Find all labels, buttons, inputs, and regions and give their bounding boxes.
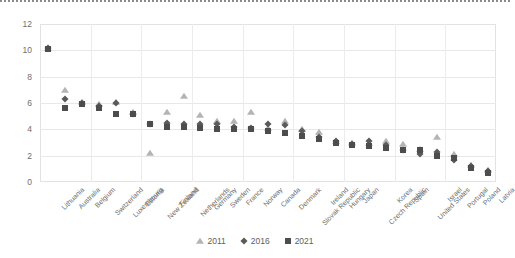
data-point-2021-switzerland — [96, 105, 102, 111]
square-marker-icon — [284, 237, 292, 245]
x-axis-label-spain: Spain — [412, 186, 430, 204]
legend-label: 2011 — [207, 236, 225, 246]
gridline-vertical — [293, 24, 294, 182]
gridline-vertical — [344, 24, 345, 182]
y-axis-tick: 2 — [27, 151, 32, 161]
data-point-2021-united-states — [417, 147, 423, 153]
y-axis-tick: 0 — [27, 177, 32, 187]
legend-item-2021[interactable]: 2021 — [284, 236, 314, 246]
data-point-2021-czech-republic — [366, 143, 372, 149]
y-axis-tick-labels: 024681012 — [0, 24, 36, 182]
data-point-2011-germany — [196, 112, 204, 118]
y-axis-tick: 6 — [27, 98, 32, 108]
y-axis-tick: 10 — [23, 45, 32, 55]
data-point-2021-sweden — [214, 126, 220, 132]
data-point-2021-estonia — [130, 111, 136, 117]
data-point-2011-new-zealand — [146, 150, 154, 156]
gridline-vertical — [141, 24, 142, 182]
data-point-2021-japan — [349, 142, 355, 148]
data-point-2011-finland — [163, 109, 171, 115]
data-point-2011-norway — [247, 109, 255, 115]
data-point-2011-netherlands — [180, 93, 188, 99]
legend-item-2011[interactable]: 2011 — [196, 236, 225, 246]
data-point-2021-lithuania — [45, 46, 51, 52]
data-point-2021-slovak-republic — [299, 133, 305, 139]
data-point-2021-canada — [265, 128, 271, 134]
gridline-vertical — [445, 24, 446, 182]
data-point-2021-israel — [434, 153, 440, 159]
data-point-2021-netherlands — [181, 124, 187, 130]
plot-area — [40, 24, 496, 182]
y-axis-tick: 8 — [27, 72, 32, 82]
x-axis-label-finland: Finland — [177, 186, 198, 207]
data-point-2021-australia — [62, 105, 68, 111]
triangle-marker-icon — [196, 237, 204, 245]
data-point-2021-korea — [383, 145, 389, 151]
data-point-2021-portugal — [451, 155, 457, 161]
gridline-vertical — [192, 24, 193, 182]
data-point-2021-ireland — [316, 136, 322, 142]
data-point-2021-spain — [400, 147, 406, 153]
gridline-horizontal — [40, 156, 496, 157]
legend-item-2016[interactable]: 2016 — [240, 236, 270, 246]
y-axis-tick: 4 — [27, 124, 32, 134]
y-axis-tick: 12 — [23, 19, 32, 29]
data-point-2021-latvia — [485, 170, 491, 176]
data-point-2021-belgium — [79, 101, 85, 107]
gridline-vertical — [91, 24, 92, 182]
gridline-vertical — [243, 24, 244, 182]
chart-legend: 201120162021 — [0, 236, 510, 246]
x-axis-category-labels: LithuaniaAustraliaBelgiumSwitzerlandLuxe… — [40, 184, 496, 236]
data-point-2021-germany — [197, 125, 203, 131]
gridline-vertical — [395, 24, 396, 182]
data-point-2021-denmark — [282, 130, 288, 136]
data-point-2021-finland — [164, 124, 170, 130]
data-point-2021-france — [231, 126, 237, 132]
data-point-2011-israel — [433, 134, 441, 140]
data-point-2021-poland — [468, 165, 474, 171]
legend-label: 2021 — [295, 236, 314, 246]
gridline-horizontal — [40, 77, 496, 78]
data-point-2011-australia — [61, 87, 69, 93]
legend-label: 2016 — [251, 236, 270, 246]
diamond-marker-icon — [240, 237, 248, 245]
data-point-2021-norway — [248, 126, 254, 132]
gridline-horizontal — [40, 103, 496, 104]
data-point-2021-new-zealand — [147, 121, 153, 127]
gridline-horizontal — [40, 50, 496, 51]
data-point-2021-luxembourg — [113, 111, 119, 117]
data-point-2021-hungary — [333, 140, 339, 146]
